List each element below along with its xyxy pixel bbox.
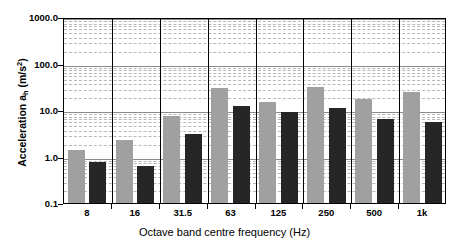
bar-125-black (281, 112, 298, 203)
x-tick-mark (111, 204, 112, 209)
gridline-major (64, 112, 445, 113)
gridline-minor (64, 33, 445, 34)
x-tick-label-8: 8 (84, 207, 89, 218)
group-separator (256, 19, 257, 203)
gridline-major (64, 19, 445, 20)
gridline-minor (64, 38, 445, 39)
bar-63-black (233, 106, 250, 203)
bar-1k-grey (403, 92, 420, 204)
bar-8-black (89, 162, 106, 203)
x-tick-mark (302, 204, 303, 209)
bar-8-grey (68, 150, 85, 203)
gridline-minor (64, 76, 445, 77)
gridline-minor (64, 24, 445, 25)
y-tick-label-10.0: 10.0 (0, 105, 58, 116)
x-tick-mark (398, 204, 399, 209)
gridline-minor (64, 21, 445, 22)
x-tick-mark (350, 204, 351, 209)
x-tick-label-125: 125 (270, 207, 286, 218)
bar-250-grey (307, 87, 324, 204)
gridline-minor (64, 70, 445, 71)
y-tick-label-1000.0: 1000.0 (0, 12, 58, 23)
bar-500-black (377, 119, 394, 203)
bar-125-grey (259, 102, 276, 203)
x-tick-label-16: 16 (130, 207, 141, 218)
x-tick-label-63: 63 (225, 207, 236, 218)
group-separator (160, 19, 161, 203)
gridline-minor (64, 26, 445, 27)
x-tick-label-250: 250 (318, 207, 334, 218)
bar-31.5-black (185, 134, 202, 203)
plot-area (63, 18, 446, 204)
x-tick-label-31.5: 31.5 (173, 207, 192, 218)
gridline-minor (64, 68, 445, 69)
gridline-minor (64, 52, 445, 53)
y-tick-label-1.0: 1.0 (0, 152, 58, 163)
x-axis-title: Octave band centre frequency (Hz) (0, 226, 449, 238)
bar-500-grey (355, 99, 372, 203)
group-separator (112, 19, 113, 203)
gridline-minor (64, 73, 445, 74)
y-tick-label-0.1: 0.1 (0, 198, 58, 209)
y-tick-mark (58, 204, 63, 205)
gridline-minor (64, 117, 445, 118)
x-tick-mark (255, 204, 256, 209)
x-tick-mark (207, 204, 208, 209)
x-tick-mark (159, 204, 160, 209)
bar-16-black (137, 166, 154, 203)
y-tick-label-100.0: 100.0 (0, 59, 58, 70)
gridline-minor (64, 114, 445, 115)
bar-1k-black (425, 122, 442, 203)
x-tick-label-500: 500 (366, 207, 382, 218)
gridline-minor (64, 29, 445, 30)
gridline-major (64, 66, 445, 67)
gridline-minor (64, 98, 445, 99)
gridline-minor (64, 43, 445, 44)
gridline-minor (64, 84, 445, 85)
bar-250-black (329, 108, 346, 203)
group-separator (303, 19, 304, 203)
x-tick-label-1k: 1k (417, 207, 428, 218)
gridline-minor (64, 80, 445, 81)
group-separator (399, 19, 400, 203)
bar-31.5-grey (163, 116, 180, 203)
bar-63-grey (211, 88, 228, 203)
group-separator (351, 19, 352, 203)
group-separator (208, 19, 209, 203)
gridline-minor (64, 90, 445, 91)
chart-root: Acceleration ah (m/s2) 1000.0100.010.01.… (0, 0, 449, 244)
bar-16-grey (116, 140, 133, 203)
